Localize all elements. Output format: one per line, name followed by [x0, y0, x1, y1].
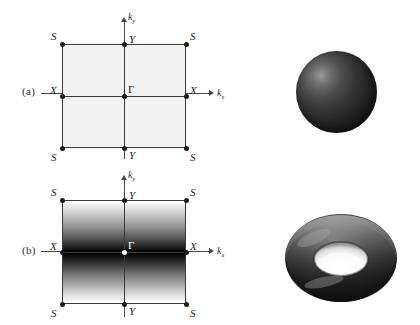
point-y-bottom-center-a: [122, 146, 127, 151]
point-gamma-center-a: [122, 94, 127, 99]
label-gamma-center-a: Γ: [128, 84, 134, 95]
point-s-top-left-a: [60, 42, 65, 47]
point-y-top-center-b: [122, 198, 127, 203]
label-s-bottom-left-a: S: [51, 152, 57, 163]
label-s-bottom-left-b: S: [51, 308, 57, 319]
label-s-bottom-right-b: S: [190, 308, 196, 319]
kx-axis-label-a: kx: [217, 88, 224, 101]
point-x-mid-left-b: [60, 250, 65, 255]
label-x-mid-left-a: X: [50, 85, 57, 96]
point-s-bottom-right-b: [184, 302, 189, 307]
label-y-top-center-a: Y: [129, 34, 135, 45]
sphere-manifold: [296, 51, 377, 133]
kx-axis-label-sub-a: x: [221, 93, 224, 100]
label-s-bottom-right-a: S: [190, 152, 196, 163]
label-y-bottom-center-b: Y: [129, 306, 135, 317]
label-s-top-left-b: S: [51, 187, 57, 198]
ky-axis-label-b: ky: [128, 170, 135, 183]
point-s-bottom-right-a: [184, 146, 189, 151]
label-y-top-center-b: Y: [129, 190, 135, 201]
label-s-top-right-a: S: [190, 31, 196, 42]
label-x-mid-left-b: X: [50, 241, 57, 252]
kx-axis-label-b: kx: [217, 246, 224, 259]
ky-axis-arrowhead-a: [121, 17, 127, 22]
point-s-top-left-b: [60, 198, 65, 203]
point-x-mid-right-a: [184, 94, 189, 99]
point-x-mid-left-a: [60, 94, 65, 99]
point-y-top-center-a: [122, 42, 127, 47]
label-s-top-left-a: S: [51, 31, 57, 42]
kx-axis-arrowhead-a: [209, 90, 214, 96]
torus-manifold: [284, 212, 398, 304]
figure-canvas: (a) kx ky S Y S X Γ X S: [0, 0, 420, 325]
point-s-bottom-left-a: [60, 146, 65, 151]
point-s-top-right-a: [184, 42, 189, 47]
ky-axis-label-sub-b: y: [132, 175, 135, 182]
point-s-bottom-left-b: [60, 302, 65, 307]
ky-axis-label-a: ky: [128, 12, 135, 25]
kx-axis-label-sub-b: x: [221, 251, 224, 258]
torus-svg: [284, 212, 398, 304]
panel-b-letter: (b): [22, 244, 36, 256]
panel-a: (a) kx ky S Y S X Γ X S: [0, 0, 260, 170]
point-gamma-center-b: [122, 250, 127, 255]
label-x-mid-right-b: X: [190, 241, 197, 252]
point-x-mid-right-b: [184, 250, 189, 255]
point-y-bottom-center-b: [122, 302, 127, 307]
panel-a-letter: (a): [22, 85, 35, 97]
panel-b: (b) kx ky S Y S X Γ X S: [0, 170, 260, 325]
label-s-top-right-b: S: [190, 187, 196, 198]
ky-axis-label-sub-a: y: [132, 17, 135, 24]
label-y-bottom-center-a: Y: [129, 150, 135, 161]
ky-axis-arrowhead-b: [121, 175, 127, 180]
point-s-top-right-b: [184, 198, 189, 203]
label-gamma-center-b: Γ: [128, 240, 134, 251]
kx-axis-arrowhead-b: [209, 248, 214, 254]
label-x-mid-right-a: X: [190, 85, 197, 96]
